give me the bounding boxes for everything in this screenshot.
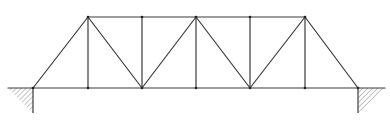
joint-T1 xyxy=(87,16,90,19)
joint-T5 xyxy=(304,16,307,19)
joint-B1 xyxy=(87,87,90,90)
joint-B2 xyxy=(141,87,144,90)
diagonal-4 xyxy=(250,17,305,88)
diagonal-2 xyxy=(142,17,196,88)
right-support xyxy=(358,88,387,113)
joint-B0 xyxy=(32,87,35,90)
joint-T2 xyxy=(141,16,144,19)
left-support xyxy=(8,88,33,113)
joint-B3 xyxy=(195,87,198,90)
supports xyxy=(8,88,387,113)
joint-B4 xyxy=(249,87,252,90)
joint-T3 xyxy=(195,16,198,19)
hatch-ground-icon xyxy=(8,88,33,113)
joint-B6 xyxy=(357,87,360,90)
left-end-post xyxy=(33,17,88,88)
truss-members xyxy=(8,17,385,88)
right-end-post xyxy=(305,17,358,88)
diagonal-3 xyxy=(196,17,250,88)
diagonal-1 xyxy=(88,17,142,88)
hatch-ground-icon xyxy=(358,88,387,113)
truss-diagram xyxy=(0,0,390,120)
joint-B5 xyxy=(304,87,307,90)
joint-T4 xyxy=(249,16,252,19)
